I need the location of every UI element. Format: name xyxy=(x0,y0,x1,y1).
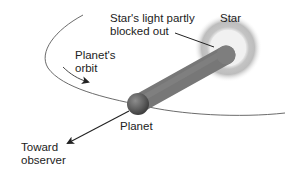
orbit-label-line-2: orbit xyxy=(75,62,116,75)
planet-label-text: Planet xyxy=(120,120,153,133)
star-label: Star xyxy=(220,12,241,25)
planet-label: Planet xyxy=(120,120,153,133)
blocked-light-line-2: blocked out xyxy=(110,25,195,38)
transit-diagram: Star Star's light partly blocked out Pla… xyxy=(0,0,301,173)
observer-label: Toward observer xyxy=(21,141,66,167)
blocked-light-line-1: Star's light partly xyxy=(110,12,195,25)
orbit-label-line-1: Planet's xyxy=(75,49,116,62)
orbit-label: Planet's orbit xyxy=(75,49,116,75)
observer-label-line-2: observer xyxy=(21,154,66,167)
planet xyxy=(127,93,149,115)
blocked-light-label: Star's light partly blocked out xyxy=(110,12,195,38)
observer-label-line-1: Toward xyxy=(21,141,66,154)
star-label-text: Star xyxy=(220,12,241,25)
